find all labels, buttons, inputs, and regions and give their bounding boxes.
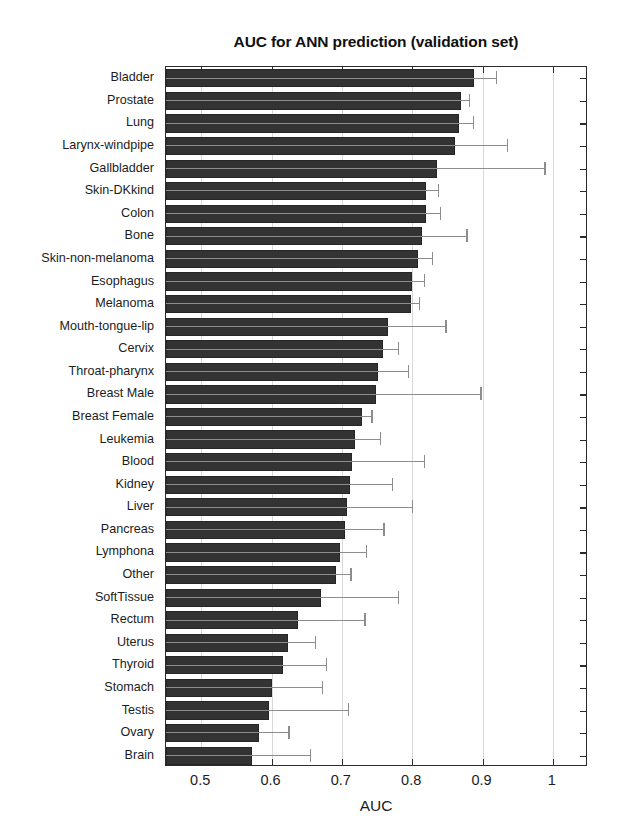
y-axis-category-label: Liver (127, 499, 154, 513)
errorbar-cap (412, 500, 413, 513)
bar-row[interactable] (166, 315, 588, 338)
y-axis-category-label: Ovary (120, 725, 154, 739)
errorbar-cap (473, 116, 474, 129)
errorbar-cap (326, 658, 327, 671)
y-axis-category-label: Lung (126, 115, 154, 129)
errorbar-line (166, 620, 365, 621)
errorbar-cap (383, 523, 384, 536)
bar-row[interactable] (166, 744, 588, 767)
errorbar-line (166, 258, 433, 259)
errorbar-line (166, 461, 424, 462)
errorbar-cap (348, 703, 349, 716)
errorbar-cap (364, 613, 365, 626)
x-axis-tick-label: 0.7 (331, 772, 351, 788)
y-axis-category-label: Testis (122, 703, 154, 717)
bar-row[interactable] (166, 112, 588, 135)
y-axis-category-label: Gallbladder (90, 161, 154, 175)
bars-layer (166, 67, 586, 765)
bar-row[interactable] (166, 451, 588, 474)
errorbar-line (166, 755, 311, 756)
y-axis-category-label: Breast Female (72, 409, 154, 423)
bar-row[interactable] (166, 428, 588, 451)
y-axis-category-label: Skin-non-melanoma (41, 251, 154, 265)
errorbar-cap (424, 455, 425, 468)
y-axis-category-label: Colon (121, 206, 154, 220)
bar-row[interactable] (166, 90, 588, 113)
y-axis-category-label: Pancreas (101, 522, 154, 536)
bar-row[interactable] (166, 135, 588, 158)
errorbar-line (166, 552, 366, 553)
bar-row[interactable] (166, 586, 588, 609)
y-axis-category-label: SoftTissue (95, 590, 154, 604)
errorbar-cap (432, 252, 433, 265)
errorbar-line (166, 665, 326, 666)
errorbar-cap (315, 636, 316, 649)
errorbar-line (166, 507, 412, 508)
y-axis-category-label: Breast Male (87, 386, 154, 400)
bar-row[interactable] (166, 293, 588, 316)
x-axis-tick-label: 0.5 (190, 772, 210, 788)
chart-title: AUC for ANN prediction (validation set) (165, 33, 587, 51)
errorbar-cap (419, 297, 420, 310)
errorbar-line (166, 687, 322, 688)
errorbar-cap (366, 545, 367, 558)
errorbar-cap (392, 478, 393, 491)
errorbar-line (166, 303, 419, 304)
errorbar-cap (466, 229, 467, 242)
bar-row[interactable] (166, 564, 588, 587)
bar-row[interactable] (166, 338, 588, 361)
bar-row[interactable] (166, 654, 588, 677)
bar-row[interactable] (166, 609, 588, 632)
errorbar-line (166, 349, 398, 350)
errorbar-line (166, 190, 439, 191)
errorbar-line (166, 326, 446, 327)
errorbar-line (166, 168, 545, 169)
y-axis-category-label: Bladder (111, 70, 154, 84)
errorbar-cap (480, 387, 481, 400)
errorbar-cap (507, 139, 508, 152)
errorbar-cap (398, 591, 399, 604)
bar-row[interactable] (166, 180, 588, 203)
y-axis-category-label: Rectum (111, 612, 154, 626)
x-axis-tick-label: 1 (548, 772, 556, 788)
x-axis-tick-labels: 0.50.60.70.80.91 (0, 772, 617, 794)
bar-row[interactable] (166, 225, 588, 248)
errorbar-cap (544, 162, 545, 175)
bar-row[interactable] (166, 202, 588, 225)
bar-row[interactable] (166, 722, 588, 745)
errorbar-cap (380, 432, 381, 445)
errorbar-cap (322, 681, 323, 694)
bar-row[interactable] (166, 157, 588, 180)
bar-row[interactable] (166, 406, 588, 429)
x-axis-tick-label: 0.9 (471, 772, 491, 788)
bar-row[interactable] (166, 677, 588, 700)
bar-row[interactable] (166, 519, 588, 542)
bar-row[interactable] (166, 361, 588, 384)
y-axis-category-label: Cervix (118, 341, 154, 355)
errorbar-cap (496, 71, 497, 84)
chart-figure: AUC for ANN prediction (validation set) … (0, 0, 617, 836)
errorbar-line (166, 529, 384, 530)
y-axis-category-label: Blood (122, 454, 154, 468)
y-axis-category-label: Mouth-tongue-lip (59, 319, 154, 333)
errorbar-cap (440, 207, 441, 220)
bar-row[interactable] (166, 383, 588, 406)
errorbar-line (166, 394, 481, 395)
errorbar-line (166, 145, 507, 146)
x-axis-tick-label: 0.6 (260, 772, 280, 788)
errorbar-line (166, 732, 289, 733)
bar-row[interactable] (166, 541, 588, 564)
bar-row[interactable] (166, 632, 588, 655)
bar-row[interactable] (166, 67, 588, 90)
bar-row[interactable] (166, 473, 588, 496)
bar-row[interactable] (166, 270, 588, 293)
y-axis-category-label: Stomach (104, 680, 154, 694)
errorbar-cap (310, 749, 311, 762)
errorbar-line (166, 236, 467, 237)
plot-area (165, 66, 587, 766)
bar-row[interactable] (166, 496, 588, 519)
x-axis-tick-label: 0.8 (401, 772, 421, 788)
bar-row[interactable] (166, 699, 588, 722)
bar-row[interactable] (166, 248, 588, 271)
y-axis-category-label: Larynx-windpipe (62, 138, 154, 152)
